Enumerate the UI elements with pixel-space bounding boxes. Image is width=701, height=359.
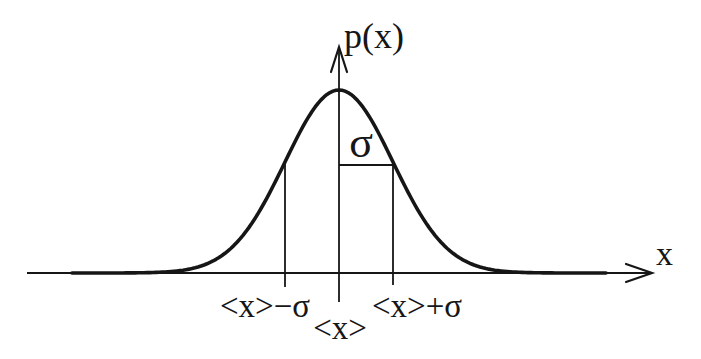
gaussian-distribution-figure: p(x) x σ <x>−σ <x> <x>+σ — [0, 0, 701, 359]
mean-label: <x> — [313, 310, 367, 346]
mean-minus-sigma-label: <x>−σ — [220, 288, 310, 324]
x-axis-label: x — [656, 235, 673, 272]
figure-canvas: p(x) x σ <x>−σ <x> <x>+σ — [0, 0, 701, 359]
sigma-label: σ — [349, 118, 373, 167]
mean-plus-sigma-label: <x>+σ — [372, 288, 462, 324]
y-axis-label: p(x) — [344, 16, 404, 56]
